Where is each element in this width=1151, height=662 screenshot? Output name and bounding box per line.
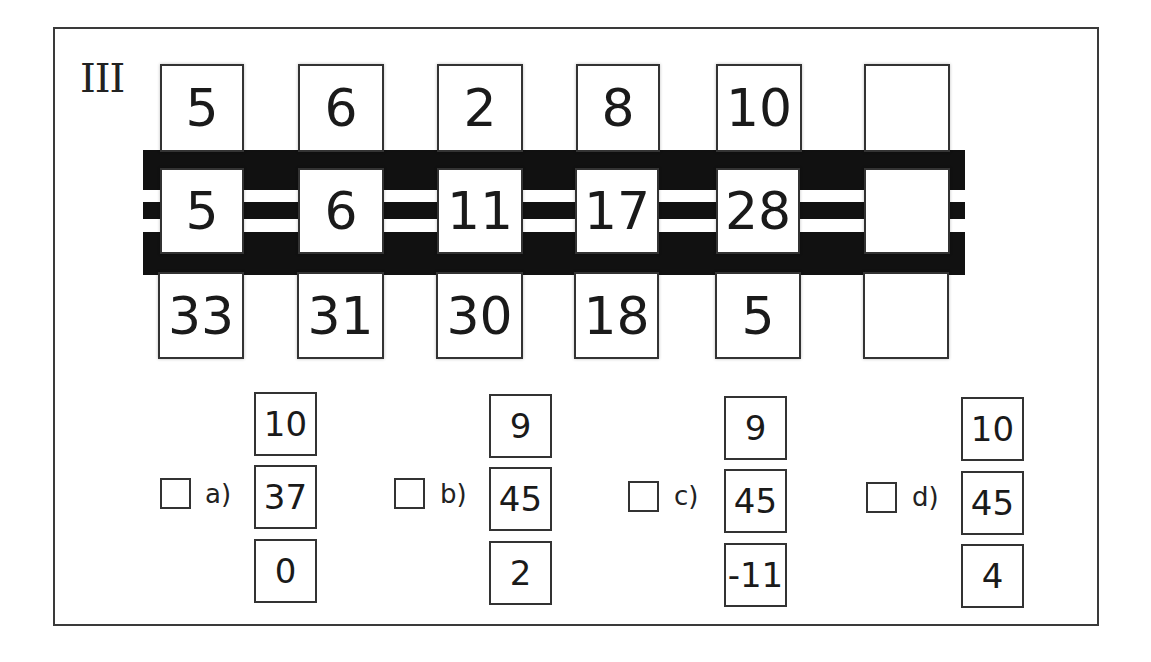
option-a-label: a) xyxy=(205,479,231,509)
option-d-checkbox[interactable] xyxy=(866,482,897,513)
option-c-bottom-value: -11 xyxy=(724,543,787,607)
column-5-middle-card: 28 xyxy=(716,168,800,254)
column-6-top-card-blank xyxy=(864,64,950,152)
option-c-middle-value: 45 xyxy=(724,469,787,533)
puzzle-number: III xyxy=(80,55,124,101)
band-stripe xyxy=(143,184,965,190)
column-1-bottom-card: 33 xyxy=(158,272,244,359)
column-2-bottom-card: 31 xyxy=(297,272,384,359)
column-3-middle-card: 11 xyxy=(437,168,523,254)
column-2-top-card: 6 xyxy=(298,64,384,152)
band-bottom-bar xyxy=(143,238,965,275)
option-a-checkbox[interactable] xyxy=(160,478,191,509)
column-5-bottom-card: 5 xyxy=(715,272,801,359)
option-d-label: d) xyxy=(912,482,939,512)
option-d-middle-value: 45 xyxy=(961,471,1024,535)
option-b-middle-value: 45 xyxy=(489,467,552,531)
option-a-top-value: 10 xyxy=(254,392,317,456)
option-b-top-value: 9 xyxy=(489,394,552,458)
column-3-bottom-card: 30 xyxy=(436,272,523,359)
option-d-bottom-value: 4 xyxy=(961,544,1024,608)
column-4-bottom-card: 18 xyxy=(574,272,659,359)
column-1-middle-card: 5 xyxy=(160,168,244,254)
option-a-bottom-value: 0 xyxy=(254,539,317,603)
band-top-bar xyxy=(143,150,965,184)
column-5-top-card: 10 xyxy=(716,64,802,152)
column-4-middle-card: 17 xyxy=(575,168,659,254)
column-1-top-card: 5 xyxy=(160,64,244,152)
column-2-middle-card: 6 xyxy=(298,168,384,254)
option-b-label: b) xyxy=(440,479,467,509)
option-c-checkbox[interactable] xyxy=(628,481,659,512)
column-6-bottom-card-blank xyxy=(863,272,949,359)
column-6-middle-card-blank xyxy=(864,168,950,254)
column-4-top-card: 8 xyxy=(576,64,660,152)
option-b-bottom-value: 2 xyxy=(489,541,552,605)
column-3-top-card: 2 xyxy=(437,64,523,152)
option-b-checkbox[interactable] xyxy=(394,478,425,509)
option-a-middle-value: 37 xyxy=(254,465,317,529)
option-d-top-value: 10 xyxy=(961,397,1024,461)
option-c-top-value: 9 xyxy=(724,396,787,460)
option-c-label: c) xyxy=(674,481,698,511)
band-stripe xyxy=(143,202,965,219)
